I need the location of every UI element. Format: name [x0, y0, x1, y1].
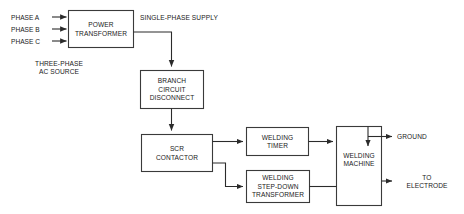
label-phase-c: PHASE C [11, 38, 40, 46]
box-welding-step-down-transformer [247, 171, 310, 203]
box-power-transformer [69, 11, 134, 48]
box-scr-contactor [142, 135, 213, 172]
connector-single-phase-supply [134, 32, 172, 67]
diagram-canvas [0, 0, 464, 214]
box-welding-timer [247, 128, 309, 156]
label-phase-a: PHASE A [11, 14, 39, 22]
block-diagram: POWER TRANSFORMER BRANCH CIRCUIT DISCONN… [0, 0, 464, 214]
connector-scr-to-step-down-transformer [213, 163, 244, 187]
box-branch-circuit-disconnect [141, 71, 204, 109]
label-phase-b: PHASE B [11, 26, 40, 34]
box-welding-machine [337, 127, 382, 206]
